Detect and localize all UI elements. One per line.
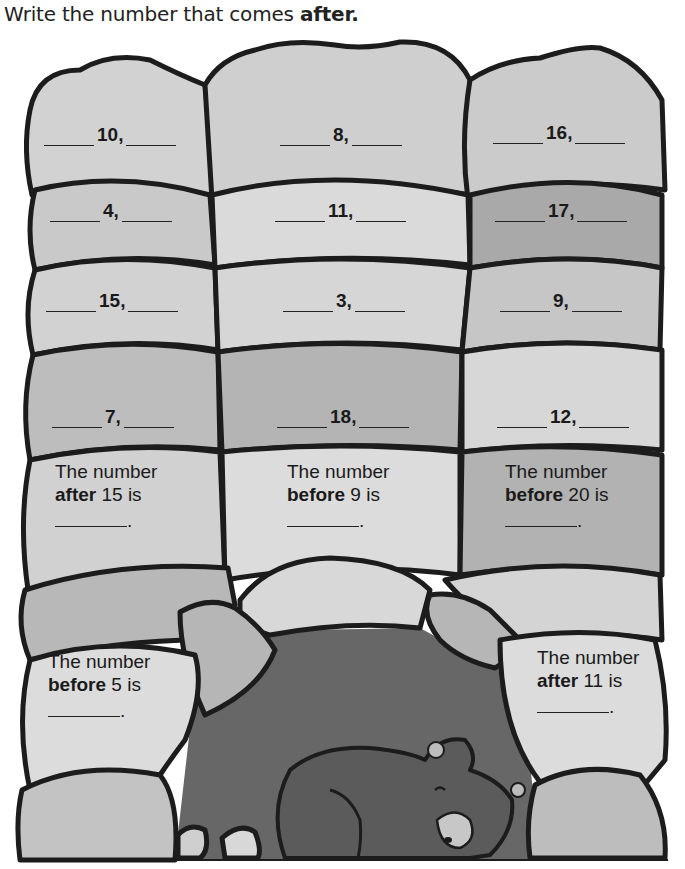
sequence-item: 4, <box>50 200 172 222</box>
question-end: . <box>120 700 125 721</box>
question-end: . <box>127 510 132 531</box>
question-end: . <box>609 696 614 717</box>
stone-r2c1 <box>30 181 215 270</box>
answer-blank-before[interactable] <box>50 203 100 222</box>
answer-blank-before[interactable] <box>280 127 330 146</box>
answer-blank-before[interactable] <box>493 125 543 144</box>
answer-blank-after[interactable] <box>577 203 627 222</box>
sequence-number: 3, <box>333 290 355 312</box>
sequence-item: 11, <box>275 200 406 222</box>
question-rest: 15 is <box>96 484 141 505</box>
sequence-number: 12, <box>547 406 579 428</box>
sequence-item: 9, <box>500 290 622 312</box>
question-rest: 9 is <box>345 484 380 505</box>
question-end: . <box>577 510 582 531</box>
answer-blank-after[interactable] <box>575 125 625 144</box>
sequence-item: 18, <box>277 406 409 428</box>
answer-blank-before[interactable] <box>495 203 545 222</box>
answer-blank-before[interactable] <box>275 203 325 222</box>
answer-blank-before[interactable] <box>46 293 96 312</box>
question-end: . <box>359 510 364 531</box>
sequence-number: 7, <box>102 406 124 428</box>
stone-r4c3 <box>462 343 662 452</box>
question-line: The number <box>537 646 639 669</box>
question-item: The number before 9 is . <box>287 460 389 532</box>
sequence-number: 9, <box>550 290 572 312</box>
question-item: The number after 15 is . <box>55 460 157 532</box>
answer-blank-after[interactable] <box>356 203 406 222</box>
stone-r4c2 <box>218 344 462 453</box>
question-item: The number before 5 is . <box>48 650 150 722</box>
sequence-item: 17, <box>495 200 627 222</box>
sequence-number: 11, <box>325 200 356 222</box>
stone-r4c1 <box>26 344 220 460</box>
stone-r1c2 <box>205 42 470 200</box>
sequence-number: 4, <box>100 200 122 222</box>
sequence-number: 17, <box>545 200 577 222</box>
question-rest: 5 is <box>106 674 141 695</box>
sequence-item: 7, <box>52 406 174 428</box>
answer-blank-before[interactable] <box>283 293 333 312</box>
sequence-item: 12, <box>497 406 629 428</box>
answer-blank-before[interactable] <box>277 409 327 428</box>
stone-r2c2 <box>212 180 470 268</box>
question-line: The number <box>287 460 389 483</box>
answer-blank-before[interactable] <box>500 293 550 312</box>
answer-blank[interactable] <box>48 714 120 717</box>
answer-blank-after[interactable] <box>352 127 402 146</box>
stone-bottom-right <box>528 769 665 858</box>
pebble <box>178 827 207 858</box>
answer-blank-after[interactable] <box>572 293 622 312</box>
question-rest: 20 is <box>563 484 608 505</box>
sequence-number: 18, <box>327 406 359 428</box>
answer-blank[interactable] <box>537 710 609 713</box>
sequence-item: 10, <box>44 124 176 146</box>
answer-blank-before[interactable] <box>44 127 94 146</box>
answer-blank-after[interactable] <box>126 127 176 146</box>
question-keyword: before <box>48 674 106 695</box>
answer-blank-after[interactable] <box>359 409 409 428</box>
sequence-item: 15, <box>46 290 178 312</box>
sequence-number: 16, <box>543 122 575 144</box>
question-keyword: before <box>505 484 563 505</box>
question-keyword: before <box>287 484 345 505</box>
pebble <box>222 828 259 858</box>
answer-blank-after[interactable] <box>122 203 172 222</box>
question-keyword: after <box>537 670 578 691</box>
answer-blank-after[interactable] <box>124 409 174 428</box>
sequence-number: 10, <box>94 124 126 146</box>
answer-blank[interactable] <box>287 524 359 527</box>
answer-blank[interactable] <box>55 524 127 527</box>
stone-r2c3 <box>470 183 662 269</box>
answer-blank-before[interactable] <box>52 409 102 428</box>
answer-blank-after[interactable] <box>579 409 629 428</box>
sequence-item: 3, <box>283 290 405 312</box>
sequence-number: 8, <box>330 124 352 146</box>
question-item: The number after 11 is . <box>537 646 639 718</box>
question-line: The number <box>48 650 150 673</box>
sequence-item: 8, <box>280 124 402 146</box>
answer-blank-before[interactable] <box>497 409 547 428</box>
answer-blank-after[interactable] <box>355 293 405 312</box>
sequence-item: 16, <box>493 122 625 144</box>
stone-bottom-left <box>18 770 176 860</box>
question-rest: 11 is <box>578 670 622 691</box>
question-line: The number <box>55 460 157 483</box>
answer-blank[interactable] <box>505 524 577 527</box>
question-item: The number before 20 is . <box>505 460 609 532</box>
question-line: The number <box>505 460 609 483</box>
question-keyword: after <box>55 484 96 505</box>
answer-blank-after[interactable] <box>128 293 178 312</box>
sequence-number: 15, <box>96 290 128 312</box>
